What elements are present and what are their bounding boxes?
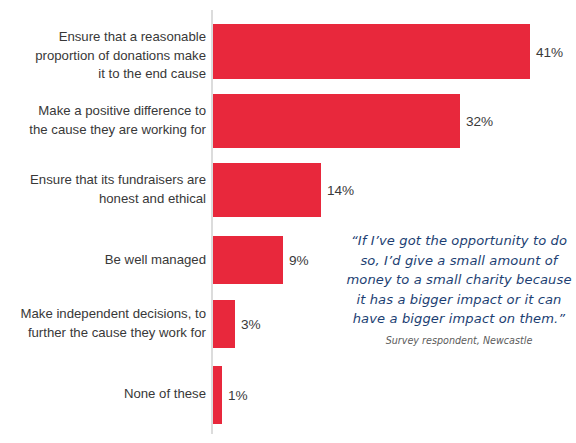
category-label: Be well managed	[0, 251, 206, 270]
bar-value-label: 9%	[289, 254, 309, 268]
bar-row: Ensure that a reasonable proportion of d…	[0, 24, 576, 79]
category-label: Ensure that its fundraisers are honest a…	[0, 171, 206, 208]
bar-segment[interactable]	[213, 366, 222, 424]
bar-value-label: 32%	[466, 115, 493, 129]
category-label: Make a positive difference to the cause …	[0, 102, 206, 139]
bar-value-label: 1%	[228, 389, 248, 403]
bar-row: Make a positive difference to the cause …	[0, 94, 576, 148]
bar-chart: Ensure that a reasonable proportion of d…	[0, 0, 576, 443]
bar-segment[interactable]	[213, 163, 321, 217]
pull-quote: “If I’ve got the opportunity to do so, I…	[344, 231, 574, 347]
bar-row: Ensure that its fundraisers are honest a…	[0, 163, 576, 217]
category-label: Make independent decisions, to further t…	[0, 305, 206, 342]
bar-segment[interactable]	[213, 94, 460, 148]
category-label: Ensure that a reasonable proportion of d…	[0, 28, 206, 84]
bar-value-label: 41%	[536, 46, 563, 60]
bar-segment[interactable]	[213, 300, 235, 348]
bar-segment[interactable]	[213, 24, 530, 79]
pull-quote-attribution: Survey respondent, Newcastle	[344, 335, 574, 347]
bar-value-label: 3%	[241, 318, 261, 332]
category-label: None of these	[0, 385, 206, 404]
bar-segment[interactable]	[213, 236, 283, 284]
bar-row: None of these 1%	[0, 366, 576, 424]
bar-value-label: 14%	[327, 184, 354, 198]
pull-quote-text: “If I’ve got the opportunity to do so, I…	[344, 231, 574, 329]
